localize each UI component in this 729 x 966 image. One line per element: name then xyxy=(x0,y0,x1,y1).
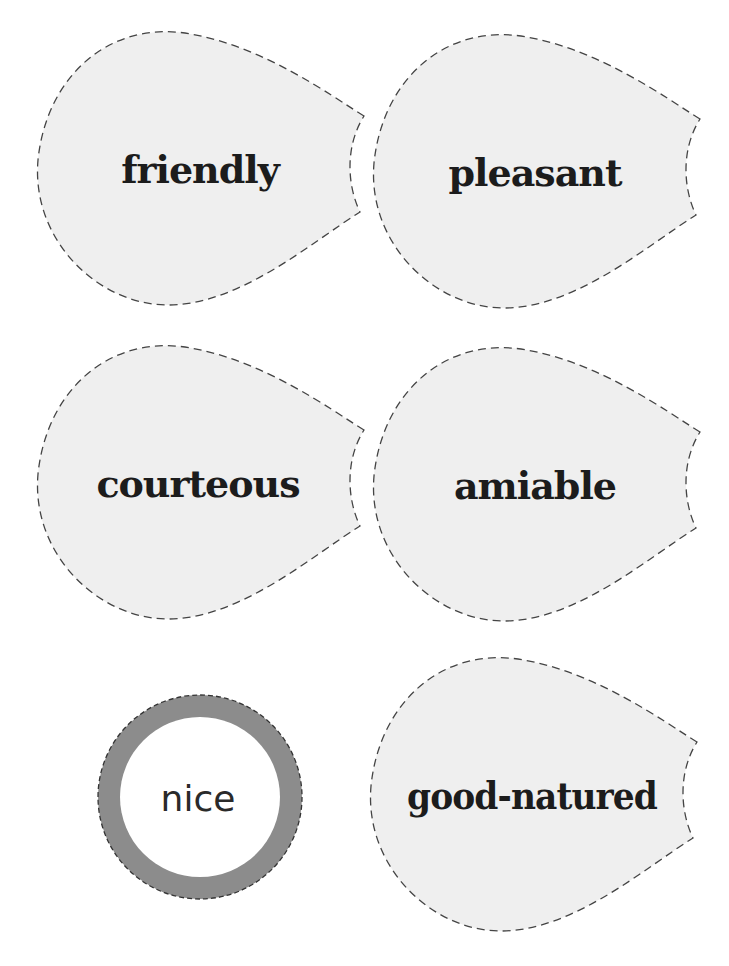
petal-label: courteous xyxy=(96,461,299,506)
petal-label: good-natured xyxy=(407,773,657,818)
petal-label: friendly xyxy=(121,147,281,192)
petal-pleasant[interactable]: pleasant xyxy=(373,35,700,308)
center-circle[interactable]: nice xyxy=(98,695,302,899)
petal-courteous[interactable]: courteous xyxy=(37,346,364,619)
center-label: nice xyxy=(161,778,236,819)
petal-label: pleasant xyxy=(448,150,622,195)
petal-friendly[interactable]: friendly xyxy=(37,32,364,305)
petal-label: amiable xyxy=(454,463,616,508)
petal-good-natured[interactable]: good-natured xyxy=(370,658,697,931)
flower-word-cutouts: friendly pleasant courteous amiable nice… xyxy=(0,0,729,966)
petal-amiable[interactable]: amiable xyxy=(373,348,700,621)
